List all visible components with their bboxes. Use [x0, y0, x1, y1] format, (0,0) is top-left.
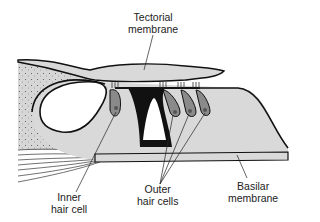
label-outer-hair-cells: Outer hair cells: [137, 183, 178, 207]
label-basilar-membrane: Basilar membrane: [228, 180, 278, 204]
basilar-membrane: [95, 152, 288, 162]
label-inner-hair-cell: Inner hair cell: [51, 191, 87, 215]
label-tectorial-membrane: Tectorial membrane: [128, 11, 178, 35]
